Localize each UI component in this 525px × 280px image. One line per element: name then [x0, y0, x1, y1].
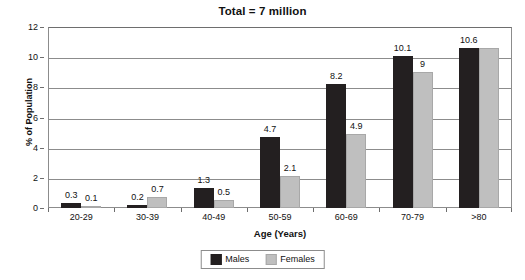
y-axis-tick-mark — [40, 57, 44, 58]
y-axis-tick-mark — [40, 118, 44, 119]
y-axis-tick-label: 0 — [33, 204, 38, 213]
gridline — [49, 119, 511, 120]
chart-legend: MalesFemales — [200, 250, 325, 269]
y-axis-tick-label: 10 — [28, 53, 38, 62]
gridline — [49, 149, 511, 150]
x-axis-tick-label: 40-49 — [202, 212, 225, 222]
y-axis-tick-mark — [40, 178, 44, 179]
y-axis-tick-mark — [40, 87, 44, 88]
x-axis-tick-label: 30-39 — [136, 212, 159, 222]
y-axis-tick-mark — [40, 208, 44, 209]
y-axis-tick-label: 6 — [33, 113, 38, 122]
y-axis-tick-mark — [40, 27, 44, 28]
y-axis-tick-label: 12 — [28, 23, 38, 32]
plot-area — [48, 27, 512, 208]
gridlines — [49, 28, 511, 207]
legend-swatch-females — [265, 254, 276, 265]
x-axis-tick-labels: 20-2930-3940-4950-5960-6970-79>80 — [48, 212, 512, 226]
bar-chart: Total = 7 million % of Population 024681… — [0, 0, 525, 280]
x-axis-tick-label: 70-79 — [401, 212, 424, 222]
legend-item-males: Males — [210, 254, 249, 265]
x-axis-tick-label: 50-59 — [268, 212, 291, 222]
x-axis-tick-label: >80 — [471, 212, 486, 222]
y-axis-tick-label: 4 — [33, 143, 38, 152]
x-axis-tick-label: 20-29 — [70, 212, 93, 222]
y-axis-ticks: 024681012 — [0, 27, 44, 208]
legend-item-females: Females — [265, 254, 315, 265]
y-axis-tick-label: 2 — [33, 173, 38, 182]
legend-swatch-males — [210, 254, 221, 265]
y-axis-tick-label: 8 — [33, 83, 38, 92]
chart-title: Total = 7 million — [0, 5, 525, 17]
gridline — [49, 179, 511, 180]
gridline — [49, 58, 511, 59]
y-axis-tick-mark — [40, 148, 44, 149]
legend-label: Females — [280, 255, 315, 264]
x-axis-tick-label: 60-69 — [335, 212, 358, 222]
x-axis-title: Age (Years) — [48, 228, 512, 239]
gridline — [49, 88, 511, 89]
legend-label: Males — [225, 255, 249, 264]
